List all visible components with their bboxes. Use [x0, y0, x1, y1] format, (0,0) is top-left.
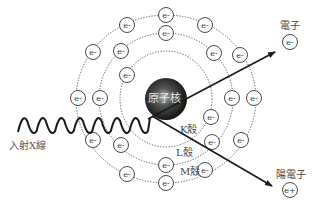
- emitted-electron-symbol: e-: [286, 38, 294, 47]
- atom-diagram-svg: e-e-e-e-e-e-e-e-e-e-e-e-e-e-e-e-e-e-e-e-…: [0, 0, 316, 210]
- electron: e-: [120, 167, 135, 182]
- emitted-electron: e-: [283, 35, 298, 50]
- l-shell-label: L殼: [176, 148, 193, 158]
- nucleus-label: 原子核: [148, 93, 181, 104]
- svg-text:e-: e-: [207, 113, 215, 122]
- svg-text:e-: e-: [117, 47, 125, 56]
- svg-text:e-: e-: [123, 21, 131, 30]
- atom-diagram: e-e-e-e-e-e-e-e-e-e-e-e-e-e-e-e-e-e-e-e-…: [0, 0, 316, 210]
- svg-text:e-: e-: [123, 170, 131, 179]
- electron: e-: [233, 48, 248, 63]
- svg-text:e-: e-: [237, 136, 245, 145]
- emitted-positron: e+: [283, 183, 298, 198]
- incident-xray-wave: [18, 118, 150, 133]
- positron-trajectory-arrow: [152, 116, 272, 186]
- electron: e-: [120, 68, 135, 83]
- svg-text:e-: e-: [201, 21, 209, 30]
- svg-text:e-: e-: [117, 141, 125, 150]
- electron: e-: [71, 91, 86, 106]
- incident-xray-label: 入射X線: [9, 141, 46, 151]
- svg-text:e-: e-: [123, 71, 131, 80]
- electron: e-: [86, 133, 101, 148]
- electron: e-: [159, 8, 174, 23]
- m-shell-label: M殼: [180, 167, 200, 177]
- svg-text:e-: e-: [162, 161, 170, 170]
- electron: e-: [247, 91, 262, 106]
- svg-text:e-: e-: [250, 94, 258, 103]
- svg-text:e-: e-: [89, 48, 97, 57]
- svg-text:e-: e-: [236, 51, 244, 60]
- electron: e-: [114, 44, 129, 59]
- svg-text:e-: e-: [89, 136, 97, 145]
- svg-text:e-: e-: [208, 138, 216, 147]
- electron: e-: [86, 45, 101, 60]
- electron: e-: [159, 176, 174, 191]
- electron: e-: [207, 46, 222, 61]
- svg-text:e-: e-: [162, 11, 170, 20]
- electron: e-: [204, 110, 219, 125]
- electron: e-: [93, 91, 108, 106]
- electron: e-: [114, 138, 129, 153]
- electron: e-: [159, 26, 174, 41]
- electron: e-: [159, 158, 174, 173]
- emitted-positron-symbol: e+: [284, 186, 295, 195]
- electron: e-: [234, 133, 249, 148]
- electron: e-: [225, 91, 240, 106]
- svg-text:e-: e-: [162, 179, 170, 188]
- svg-text:e-: e-: [210, 49, 218, 58]
- svg-text:e-: e-: [96, 94, 104, 103]
- svg-text:e-: e-: [228, 94, 236, 103]
- k-shell-label: K殼: [180, 125, 197, 135]
- positron-out-label: 陽電子: [276, 170, 306, 180]
- svg-text:e-: e-: [201, 166, 209, 175]
- electron: e-: [198, 18, 213, 33]
- svg-text:e-: e-: [162, 29, 170, 38]
- electron: e-: [120, 18, 135, 33]
- svg-text:e-: e-: [74, 94, 82, 103]
- electron-out-label: 電子: [280, 21, 300, 31]
